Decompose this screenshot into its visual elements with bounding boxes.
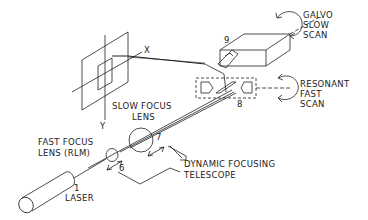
x-axis-label: X [144,46,150,56]
resonant-scanner [196,78,290,98]
laser [16,159,106,215]
fast-focus-label-1: FAST FOCUS [38,138,93,148]
telescope-label-1: DYNAMIC FOCUSING [184,160,275,170]
fast-focus-number: 6 [119,164,125,174]
slow-focus-number: 7 [156,133,162,143]
slow-focus-label-2: LENS [132,113,155,123]
slow-focus-label-1: SLOW FOCUS [112,102,172,112]
galvo-number: 9 [224,36,230,46]
fast-focus-label-2: LENS (RLM) [38,149,90,159]
galvo-label-3: SCAN [303,31,328,41]
x-axis-line [72,52,142,92]
lens7-motion-arrow [148,147,164,156]
telescope-label-2: TELESCOPE [184,171,236,181]
slow-focus-lens [129,128,153,152]
laser-label: LASER [65,194,94,204]
y-axis-label: Y [100,122,106,132]
telescope-bracket [118,168,170,184]
beam-to-plane [112,56,205,64]
resonant-number: 8 [237,100,243,110]
resonant-label-3: SCAN [300,100,325,110]
galvo-rotation-arrow [277,12,302,36]
